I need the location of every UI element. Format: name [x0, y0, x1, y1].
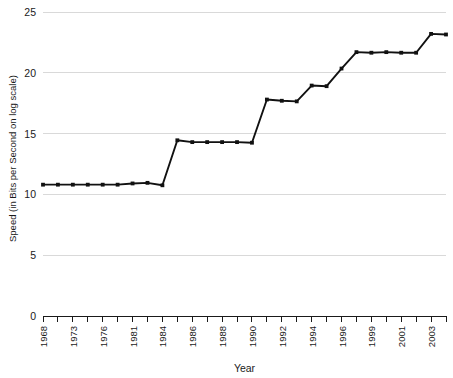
- data-point-marker: [310, 84, 314, 88]
- x-tick-label: 1999: [366, 326, 377, 347]
- x-tick-label: 1968: [38, 326, 49, 347]
- y-tick-label: 15: [24, 128, 36, 140]
- x-tick-label: 1984: [157, 326, 168, 347]
- data-point-marker: [265, 98, 269, 102]
- y-tick-label: 25: [24, 6, 36, 18]
- y-tick-label: 5: [30, 249, 36, 261]
- line-chart: 0510152025 19681973197619811984198619881…: [0, 0, 453, 378]
- y-tick-label: 20: [24, 67, 36, 79]
- data-point-marker: [116, 183, 120, 187]
- y-axis-label: Speed (in Bits per Second on log scale): [7, 75, 18, 242]
- series-line: [43, 34, 446, 185]
- x-axis-label: Year: [234, 362, 256, 374]
- data-point-marker: [41, 183, 45, 187]
- x-tick-label: 1976: [98, 326, 109, 347]
- data-point-marker: [71, 183, 75, 187]
- data-point-marker: [220, 140, 224, 144]
- y-tick-label: 0: [30, 310, 36, 322]
- x-axis-tickmarks: [43, 316, 446, 322]
- data-point-marker: [399, 51, 403, 55]
- data-point-marker: [205, 140, 209, 144]
- x-tick-label: 1996: [337, 326, 348, 347]
- data-point-marker: [250, 141, 254, 145]
- data-point-marker: [235, 140, 239, 144]
- data-point-marker: [295, 99, 299, 103]
- y-tick-label: 10: [24, 188, 36, 200]
- x-tick-label: 1988: [217, 326, 228, 347]
- x-tick-label: 1994: [307, 326, 318, 347]
- chart-container: 0510152025 19681973197619811984198619881…: [0, 0, 453, 378]
- data-point-marker: [175, 138, 179, 142]
- data-point-marker: [101, 183, 105, 187]
- data-point-marker: [190, 140, 194, 144]
- data-point-marker: [146, 181, 150, 185]
- y-axis-tick-labels: 0510152025: [24, 6, 36, 322]
- x-tick-label: 1986: [187, 326, 198, 347]
- data-point-marker: [131, 182, 135, 186]
- data-point-marker: [56, 183, 60, 187]
- x-tick-label: 1973: [68, 326, 79, 347]
- data-point-marker: [384, 50, 388, 54]
- data-point-marker: [414, 51, 418, 55]
- data-point-marker: [355, 50, 359, 54]
- data-point-marker: [429, 32, 433, 36]
- x-tick-label: 1990: [247, 326, 258, 347]
- data-point-marker: [369, 51, 373, 55]
- data-point-marker: [161, 183, 165, 187]
- data-point-markers: [41, 32, 448, 187]
- x-tick-label: 1981: [128, 326, 139, 347]
- x-tick-label: 2003: [426, 326, 437, 347]
- data-point-marker: [325, 84, 329, 88]
- data-point-marker: [444, 33, 448, 37]
- x-tick-label: 1992: [277, 326, 288, 347]
- data-point-marker: [86, 183, 90, 187]
- gridlines-group: [43, 12, 446, 255]
- data-point-marker: [340, 67, 344, 71]
- x-tick-label: 2001: [396, 326, 407, 347]
- x-axis-tick-labels: 1968197319761981198419861988199019921994…: [38, 326, 437, 347]
- data-point-marker: [280, 99, 284, 103]
